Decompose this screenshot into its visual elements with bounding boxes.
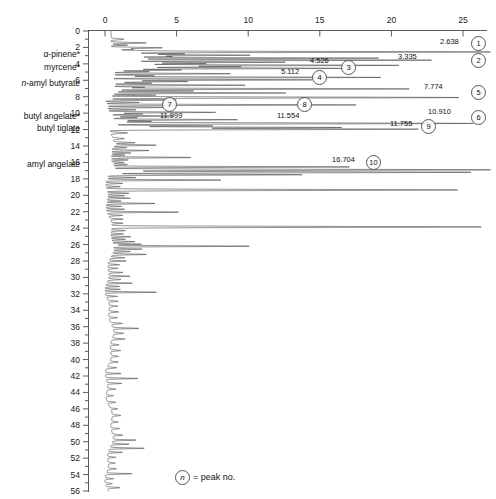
y-tick-label: 0 bbox=[60, 27, 80, 36]
y-tick-label: 54 bbox=[60, 471, 80, 480]
y-tick-label: 26 bbox=[60, 241, 80, 250]
y-tick-label: 40 bbox=[60, 356, 80, 365]
compound-label: amyl angelate bbox=[27, 160, 80, 169]
chromatogram-chart: 0510152025 02468101214161820222426283032… bbox=[0, 0, 496, 499]
legend-circle-icon: n bbox=[175, 470, 190, 485]
x-tick-label: 15 bbox=[300, 16, 340, 25]
x-tick-label: 10 bbox=[228, 16, 268, 25]
y-axis-ticks bbox=[83, 31, 89, 491]
compound-label: α-pinene* bbox=[43, 50, 80, 59]
y-tick-label: 20 bbox=[60, 191, 80, 200]
peak-value-label: 11.554 bbox=[277, 112, 299, 120]
y-tick-label: 46 bbox=[60, 405, 80, 414]
peak-value-label: 11.999 bbox=[160, 112, 182, 120]
peak-number-marker: 5 bbox=[471, 85, 486, 100]
peak-value-label: 16.704 bbox=[332, 156, 355, 164]
x-tick-label: 25 bbox=[443, 16, 483, 25]
y-tick-label: 52 bbox=[60, 454, 80, 463]
peak-number-marker: 10 bbox=[366, 155, 381, 170]
x-tick-label: 5 bbox=[157, 16, 197, 25]
peak-number-marker: 3 bbox=[341, 60, 356, 75]
legend-text: = peak no. bbox=[193, 473, 235, 482]
y-tick-label: 38 bbox=[60, 339, 80, 348]
y-tick-label: 22 bbox=[60, 208, 80, 217]
y-tick-label: 8 bbox=[60, 93, 80, 102]
compound-label: myrcene* bbox=[44, 63, 80, 72]
peak-number-marker: 6 bbox=[471, 110, 486, 125]
legend-peak-no: n = peak no. bbox=[175, 470, 235, 485]
peak-value-label: 3.335 bbox=[398, 53, 417, 61]
peak-number-marker: 1 bbox=[471, 36, 486, 51]
compound-label: butyl tiglate bbox=[37, 124, 80, 133]
compound-label: n-amyl butyrate bbox=[21, 79, 80, 88]
peak-value-label: 4.526 bbox=[310, 57, 329, 65]
y-tick-label: 34 bbox=[60, 306, 80, 315]
peak-number-marker: 7 bbox=[162, 97, 177, 112]
peak-number-marker: 9 bbox=[421, 119, 436, 134]
y-tick-label: 56 bbox=[60, 487, 80, 496]
peak-value-label: 7.774 bbox=[424, 83, 443, 91]
y-tick-label: 44 bbox=[60, 388, 80, 397]
peak-value-label: 11.755 bbox=[390, 120, 412, 128]
x-axis-ticks bbox=[105, 31, 463, 37]
y-tick-label: 32 bbox=[60, 290, 80, 299]
y-tick-label: 24 bbox=[60, 224, 80, 233]
peak-value-label: 5.112 bbox=[281, 68, 299, 76]
peak-number-marker: 2 bbox=[471, 53, 486, 68]
x-tick-label: 20 bbox=[371, 16, 411, 25]
y-tick-label: 28 bbox=[60, 257, 80, 266]
y-tick-label: 50 bbox=[60, 438, 80, 447]
compound-label: butyl angelate* bbox=[24, 112, 80, 121]
y-tick-label: 14 bbox=[60, 142, 80, 151]
y-tick-label: 18 bbox=[60, 175, 80, 184]
y-tick-label: 30 bbox=[60, 273, 80, 282]
y-tick-label: 48 bbox=[60, 421, 80, 430]
peak-value-label: 2.638 bbox=[440, 38, 459, 46]
peak-number-marker: 4 bbox=[312, 70, 327, 85]
y-tick-label: 36 bbox=[60, 323, 80, 332]
x-tick-label: 0 bbox=[85, 16, 125, 25]
peak-value-label: 10.910 bbox=[428, 108, 451, 116]
peak-number-marker: 8 bbox=[297, 97, 312, 112]
y-tick-label: 42 bbox=[60, 372, 80, 381]
compound-label-italic-prefix: n bbox=[21, 78, 26, 88]
